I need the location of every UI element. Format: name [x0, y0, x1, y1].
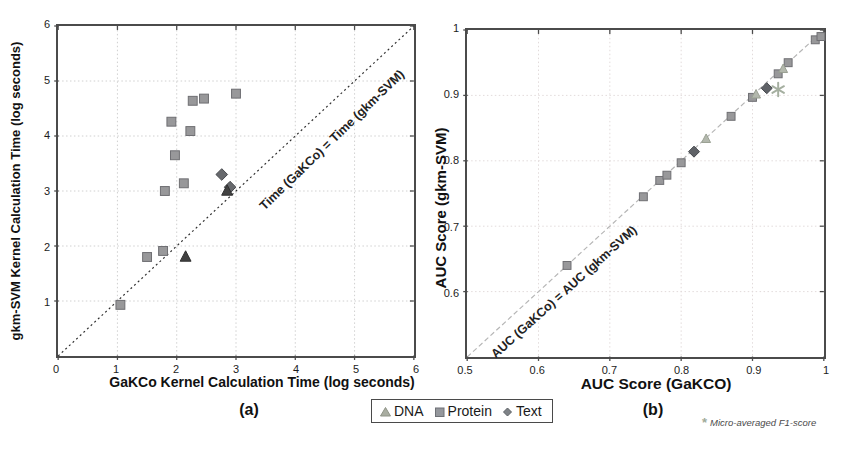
legend-box: DNAProteinText — [371, 399, 553, 423]
plot-b-frame: AUC (GaKCo) = AUC (gkm-SVM) — [465, 28, 826, 359]
identity-line — [58, 26, 414, 356]
plot-b-x-axis-label: AUC Score (GaKCO) — [581, 375, 732, 393]
marker-protein — [663, 171, 671, 179]
legend-label: Protein — [448, 403, 492, 419]
marker-text — [688, 146, 699, 157]
y-tick-label: 2 — [44, 241, 50, 253]
marker-protein — [727, 112, 735, 120]
legend-label: Text — [516, 403, 542, 419]
y-tick-label: 1 — [453, 22, 459, 34]
marker-f1 — [772, 83, 784, 96]
x-tick-label: 0.7 — [602, 364, 617, 376]
asterisk-icon: * — [702, 418, 707, 428]
marker-protein — [186, 127, 195, 136]
footnote: * Micro-averaged F1-score — [702, 417, 816, 428]
marker-protein — [817, 33, 825, 41]
plot-b-y-axis-label: AUC Score (gkm-SVM) — [432, 128, 449, 289]
x-tick-label: 1 — [113, 363, 119, 375]
marker-protein — [116, 300, 125, 309]
y-tick-label: 6 — [44, 18, 50, 30]
marker-dna — [180, 251, 191, 261]
marker-protein — [563, 261, 571, 269]
y-tick-label: 1 — [44, 296, 50, 308]
marker-protein — [167, 117, 176, 126]
figure: gkm-SVM Kernel Calculation Time (log sec… — [0, 0, 862, 449]
x-tick-label: 0.6 — [530, 364, 545, 376]
legend-item-text: Text — [501, 403, 542, 419]
plot-a-y-axis-label: gkm-SVM Kernel Calculation Time (log sec… — [8, 42, 23, 341]
y-tick-label: 3 — [44, 185, 50, 197]
legend-item-dna: DNA — [379, 403, 424, 419]
footnote-text: Micro-averaged F1-score — [710, 417, 816, 428]
x-tick-label: 5 — [353, 363, 359, 375]
x-tick-label: 0.5 — [457, 364, 472, 376]
plot-b-canvas — [467, 30, 824, 357]
marker-text — [761, 83, 772, 94]
x-tick-label: 3 — [233, 363, 239, 375]
marker-protein — [677, 159, 685, 167]
x-tick-label: 2 — [173, 363, 179, 375]
y-tick-label: 4 — [44, 129, 50, 141]
marker-protein — [160, 187, 169, 196]
diamond-icon — [501, 405, 514, 418]
legend-item-protein: Protein — [433, 403, 492, 419]
marker-protein — [143, 253, 152, 262]
y-tick-label: 0.7 — [444, 221, 459, 233]
marker-protein — [188, 96, 197, 105]
x-tick-label: 4 — [293, 363, 299, 375]
marker-protein — [159, 247, 168, 256]
x-tick-label: 1 — [823, 364, 829, 376]
marker-text — [216, 169, 228, 181]
x-tick-label: 0 — [53, 363, 59, 375]
marker-protein — [170, 151, 179, 160]
marker-protein — [232, 89, 241, 98]
y-tick-label: 0.6 — [444, 287, 459, 299]
panel-a-caption: (a) — [239, 401, 259, 419]
plot-a-x-axis-label: GaKCo Kernel Calculation Time (log secon… — [109, 374, 414, 390]
x-tick-label: 0.8 — [674, 364, 689, 376]
y-tick-label: 0.8 — [444, 154, 459, 166]
plot-a-canvas — [58, 26, 414, 356]
plot-a-frame: Time (GaKCo) = Time (gkm-SVM) — [56, 24, 416, 358]
square-icon — [433, 405, 446, 418]
marker-protein — [639, 193, 647, 201]
legend-label: DNA — [394, 403, 424, 419]
y-tick-label: 5 — [44, 74, 50, 86]
triangle-icon — [379, 405, 392, 418]
marker-protein — [784, 59, 792, 67]
x-tick-label: 6 — [413, 363, 419, 375]
x-tick-label: 0.9 — [746, 364, 761, 376]
panel-b-caption: (b) — [643, 401, 663, 419]
y-tick-label: 0.9 — [444, 88, 459, 100]
marker-protein — [179, 179, 188, 188]
marker-protein — [200, 94, 209, 103]
